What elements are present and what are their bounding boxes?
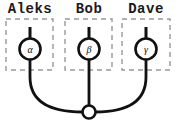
node-symbol-beta: β [86, 44, 92, 55]
merge-diagram: Aleks Bob Dave α β γ [0, 0, 178, 125]
edge-right [96, 60, 147, 113]
junction-circle [83, 106, 96, 119]
edge-left [30, 60, 83, 113]
participant-label-3: Dave [128, 1, 164, 17]
diagram-canvas: Aleks Bob Dave α β γ [0, 0, 178, 125]
participant-label-2: Bob [76, 1, 103, 17]
participant-label-1: Aleks [8, 1, 53, 17]
node-symbol-alpha: α [27, 44, 33, 55]
